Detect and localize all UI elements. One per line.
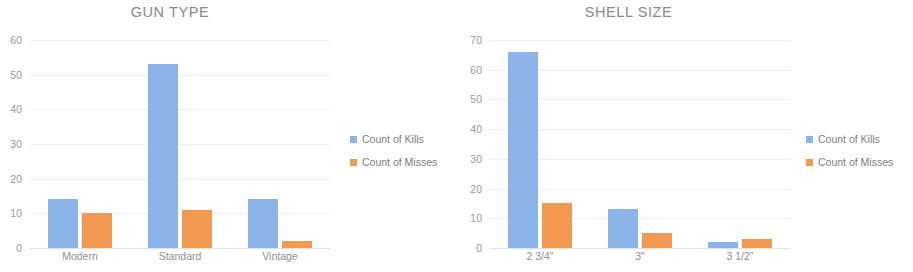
chart-legend: Count of KillsCount of Misses <box>806 133 893 168</box>
legend-label: Count of Kills <box>818 133 880 145</box>
chart-title: SHELL SIZE <box>456 4 801 20</box>
chart-title: GUN TYPE <box>0 4 340 20</box>
plot-area <box>490 40 790 248</box>
x-axis-tick: Modern <box>30 250 130 262</box>
gridline <box>30 248 330 249</box>
x-axis-labels: 2 3/4"3"3 1/2" <box>490 250 790 262</box>
y-axis-tick: 30 <box>10 138 22 150</box>
bar-groups <box>490 40 790 248</box>
bar-group <box>230 40 330 248</box>
bar[interactable] <box>182 210 212 248</box>
y-axis-tick: 0 <box>476 242 482 254</box>
legend-swatch-icon <box>350 159 357 166</box>
legend-swatch-icon <box>806 159 813 166</box>
legend-label: Count of Kills <box>362 133 424 145</box>
bar-group <box>690 40 790 248</box>
bar-group <box>130 40 230 248</box>
y-axis-tick: 20 <box>10 173 22 185</box>
legend-swatch-icon <box>806 136 813 143</box>
legend-item[interactable]: Count of Kills <box>350 133 437 145</box>
y-axis-tick: 20 <box>470 183 482 195</box>
x-axis-tick: 2 3/4" <box>490 250 590 262</box>
y-axis-tick: 10 <box>10 207 22 219</box>
bar[interactable] <box>148 64 178 248</box>
bar[interactable] <box>542 203 572 248</box>
legend-item[interactable]: Count of Misses <box>350 156 437 168</box>
y-axis-labels: 0102030405060 <box>0 40 26 248</box>
gridline <box>490 248 790 249</box>
y-axis-tick: 70 <box>470 34 482 46</box>
bar[interactable] <box>642 233 672 248</box>
y-axis-tick: 40 <box>470 123 482 135</box>
x-axis-tick: Standard <box>130 250 230 262</box>
bar[interactable] <box>248 199 278 248</box>
y-axis-tick: 10 <box>470 212 482 224</box>
bar[interactable] <box>608 209 638 248</box>
plot-area <box>30 40 330 248</box>
bar[interactable] <box>742 239 772 248</box>
x-axis-tick: 3" <box>590 250 690 262</box>
bar[interactable] <box>282 241 312 248</box>
legend-item[interactable]: Count of Misses <box>806 156 893 168</box>
y-axis-tick: 30 <box>470 153 482 165</box>
y-axis-labels: 010203040506070 <box>456 40 486 248</box>
bar[interactable] <box>48 199 78 248</box>
bar-groups <box>30 40 330 248</box>
y-axis-tick: 40 <box>10 103 22 115</box>
x-axis-tick: 3 1/2" <box>690 250 790 262</box>
chart-gun-type: GUN TYPE 0102030405060 ModernStandardVin… <box>0 0 456 272</box>
legend-swatch-icon <box>350 136 357 143</box>
bar-group <box>490 40 590 248</box>
chart-shell-size: SHELL SIZE 010203040506070 2 3/4"3"3 1/2… <box>456 0 913 272</box>
y-axis-tick: 60 <box>470 64 482 76</box>
bar-group <box>590 40 690 248</box>
y-axis-tick: 0 <box>16 242 22 254</box>
charts-dashboard: GUN TYPE 0102030405060 ModernStandardVin… <box>0 0 913 272</box>
chart-legend: Count of KillsCount of Misses <box>350 133 437 168</box>
bar[interactable] <box>82 213 112 248</box>
bar[interactable] <box>708 242 738 248</box>
legend-item[interactable]: Count of Kills <box>806 133 893 145</box>
x-axis-labels: ModernStandardVintage <box>30 250 330 262</box>
legend-label: Count of Misses <box>818 156 893 168</box>
x-axis-tick: Vintage <box>230 250 330 262</box>
y-axis-tick: 60 <box>10 34 22 46</box>
y-axis-tick: 50 <box>470 93 482 105</box>
legend-label: Count of Misses <box>362 156 437 168</box>
bar[interactable] <box>508 52 538 248</box>
bar-group <box>30 40 130 248</box>
y-axis-tick: 50 <box>10 69 22 81</box>
